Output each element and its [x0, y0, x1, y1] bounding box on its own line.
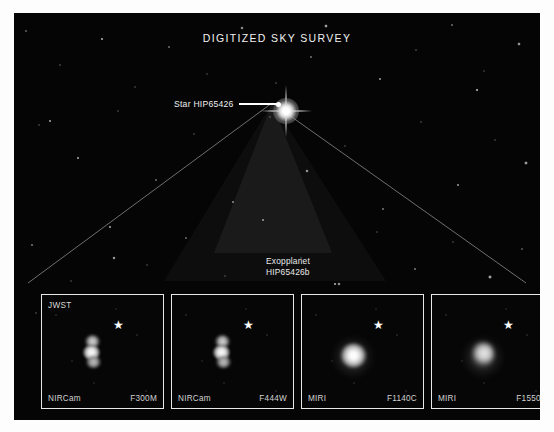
star-marker-icon: ★ — [373, 319, 384, 331]
star-callout-label: Star HIP65426 — [174, 99, 234, 109]
leader-dot-icon — [276, 102, 281, 107]
digitized-sky-survey-image: DIGITIZED SKY SURVEY Star HIP65426 Exopp… — [14, 13, 540, 420]
exoplanet-label-line2: HIP65426b — [266, 267, 310, 278]
survey-title: DIGITIZED SKY SURVEY — [14, 32, 540, 44]
panel-instrument-label: NIRCam — [178, 394, 211, 403]
exoplanet-blob-icon — [340, 343, 367, 368]
host-star-hip65426 — [258, 83, 314, 139]
panel-starfield — [172, 295, 293, 408]
star-marker-icon: ★ — [113, 319, 124, 331]
exoplanet-blob-icon — [86, 356, 101, 368]
panel-filter-label: F300M — [130, 394, 157, 403]
panel-instrument-label: MIRI — [438, 394, 456, 403]
leader-line-icon — [239, 103, 277, 105]
panel-filter-label: F1550C — [516, 394, 540, 403]
panel-filter-label: F444W — [259, 394, 287, 403]
star-callout: Star HIP65426 — [174, 99, 281, 109]
exoplanet-label: Exopplanet HIP65426b — [266, 256, 310, 278]
panel-instrument-label: NIRCam — [48, 394, 81, 403]
jwst-panel-nircam-f444w: ★ NIRCam F444W — [171, 294, 294, 409]
panel-filter-label: F1140C — [387, 394, 417, 403]
jwst-panel-nircam-f300m: ★ JWST NIRCam F300M — [41, 294, 164, 409]
exoplanet-label-line1: Exopplanet — [266, 256, 310, 267]
exoplanet-blob-icon — [216, 356, 231, 368]
star-marker-icon: ★ — [503, 319, 514, 331]
image-canvas: DIGITIZED SKY SURVEY Star HIP65426 Exopp… — [0, 0, 554, 432]
jwst-panel-miri-f1140c: ★ MIRI F1140C — [301, 294, 424, 409]
star-marker-icon: ★ — [243, 319, 254, 331]
panel-instrument-label: MIRI — [308, 394, 326, 403]
panel-starfield — [42, 295, 163, 408]
panel-observatory-label: JWST — [48, 301, 71, 310]
jwst-panel-miri-f1550c: ★ MIRI F1550C — [431, 294, 540, 409]
